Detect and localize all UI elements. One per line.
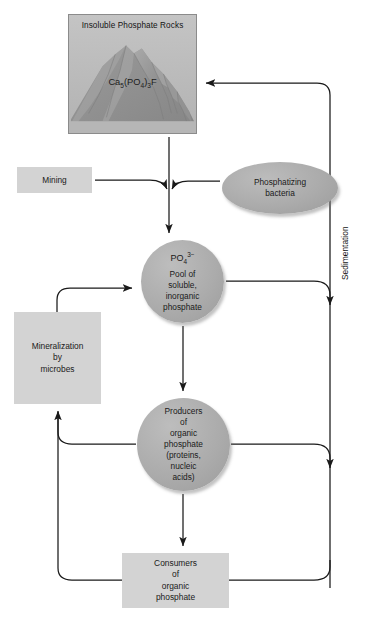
bacteria-label-line1: Phosphatizing bbox=[254, 177, 306, 188]
rock-panel-title: Insoluble Phosphate Rocks bbox=[69, 21, 196, 30]
consumers-label-line2: of bbox=[154, 569, 197, 580]
consumers-label-line1: Consumers bbox=[154, 558, 197, 569]
producer-decay-arrow bbox=[58, 412, 136, 444]
bacteria-label-line2: bacteria bbox=[254, 188, 306, 199]
sedimentation-label: Sedimentation bbox=[340, 160, 350, 280]
producers-label-line3: organic bbox=[170, 428, 197, 439]
pool-formula: PO43− bbox=[171, 251, 195, 266]
formula-po-open: (PO bbox=[124, 77, 141, 87]
consumers-label-line3: organic bbox=[154, 581, 197, 592]
producers-of-organic-phosphate-circle: Producers of organic phosphate (proteins… bbox=[137, 398, 230, 491]
producers-label-line6: nucleic bbox=[171, 461, 197, 472]
sedimentation-arrow-from-pool bbox=[226, 281, 330, 305]
producers-label-line2: of bbox=[180, 417, 187, 428]
formula-ca: Ca bbox=[108, 77, 120, 87]
mining-label: Mining bbox=[42, 175, 66, 186]
consumers-label-line4: phosphate bbox=[154, 592, 197, 603]
mineralization-by-microbes-box: Mineralization by microbes bbox=[14, 312, 101, 404]
pool-formula-po: PO bbox=[171, 253, 184, 263]
mineralization-label-line2: by bbox=[32, 352, 84, 363]
pool-formula-sub: 4 bbox=[184, 257, 188, 264]
mineralization-label-line3: microbes bbox=[32, 364, 84, 375]
bacteria-arrow bbox=[172, 181, 220, 189]
producers-label-line5: (proteins, bbox=[166, 450, 201, 461]
soluble-phosphate-pool-circle: PO43− Pool of soluble, inorganic phospha… bbox=[141, 240, 224, 323]
sedimentation-arrow-from-producers bbox=[231, 444, 330, 468]
producers-label-line7: acids) bbox=[172, 472, 194, 483]
producers-label-line4: phosphate bbox=[164, 439, 203, 450]
mineralization-label-line1: Mineralization bbox=[32, 341, 84, 352]
mining-arrow bbox=[95, 180, 167, 189]
phosphorus-cycle-diagram: Insoluble Phosphate Rocks Ca5(PO4)3F Min… bbox=[0, 0, 371, 630]
formula-f: F bbox=[151, 77, 157, 87]
pool-formula-charge: 3− bbox=[187, 251, 194, 258]
pool-label-line4: phosphate bbox=[163, 302, 202, 313]
rock-panel-formula: Ca5(PO4)3F bbox=[69, 77, 196, 89]
insoluble-phosphate-rocks-panel: Insoluble Phosphate Rocks Ca5(PO4)3F bbox=[68, 14, 197, 134]
pool-label-line3: inorganic bbox=[166, 291, 200, 302]
sedimentation-trunk bbox=[206, 83, 330, 588]
consumers-of-organic-phosphate-box: Consumers of organic phosphate bbox=[122, 553, 229, 608]
pool-label-line1: Pool of bbox=[170, 269, 196, 280]
mountain-illustration bbox=[69, 15, 196, 133]
sedimentation-arrow-from-consumers bbox=[229, 560, 330, 580]
consumer-decay-arrow bbox=[58, 432, 122, 580]
pool-label-line2: soluble, bbox=[168, 280, 197, 291]
mineralization-release-arrow bbox=[57, 288, 132, 312]
producers-label-line1: Producers bbox=[165, 406, 203, 417]
phosphatizing-bacteria-oval: Phosphatizing bacteria bbox=[222, 162, 338, 214]
mining-box: Mining bbox=[17, 167, 92, 193]
